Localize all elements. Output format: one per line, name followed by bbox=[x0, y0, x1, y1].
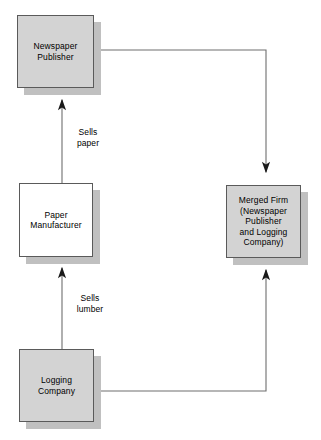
node-logging-company[interactable]: Logging Company bbox=[19, 349, 94, 422]
edge-label-sells-paper: Sells paper bbox=[64, 127, 112, 148]
node-paper-manufacturer[interactable]: Paper Manufacturer bbox=[19, 183, 93, 257]
node-paper-manufacturer-label: Paper Manufacturer bbox=[30, 210, 81, 231]
edge-line-newspaper-to-merged bbox=[94, 50, 266, 172]
node-merged-firm-label: Merged Firm (Newspaper Publisher and Log… bbox=[239, 195, 288, 248]
node-newspaper-publisher-label: Newspaper Publisher bbox=[34, 41, 78, 62]
node-merged-firm[interactable]: Merged Firm (Newspaper Publisher and Log… bbox=[226, 185, 301, 258]
node-logging-company-label: Logging Company bbox=[38, 375, 75, 396]
node-newspaper-publisher[interactable]: Newspaper Publisher bbox=[17, 15, 94, 88]
merger-diagram: Newspaper Publisher Paper Manufacturer L… bbox=[0, 0, 321, 440]
edge-label-sells-lumber: Sells lumber bbox=[64, 293, 116, 314]
edge-line-logging-to-merged bbox=[94, 270, 266, 391]
